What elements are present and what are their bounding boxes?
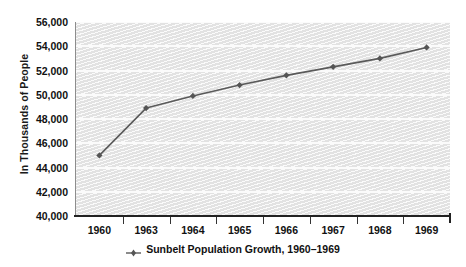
data-point-1964: [190, 93, 196, 99]
y-axis-tick-label: 44,000: [36, 162, 68, 174]
legend-marker-icon: [126, 244, 141, 254]
x-axis-tick: [216, 217, 217, 224]
line-chart: In Thousands of People 56,00054,00052,00…: [0, 0, 466, 267]
data-point-1965: [237, 82, 243, 88]
x-axis-tick-label: 1968: [368, 224, 391, 236]
x-axis-tick-label: 1960: [88, 224, 111, 236]
data-point-1967: [330, 64, 336, 70]
x-axis-tick: [357, 217, 358, 224]
y-axis-tick-label: 40,000: [36, 210, 68, 222]
x-axis-tick-label: 1967: [321, 224, 344, 236]
y-axis-tick-label: 52,000: [36, 65, 68, 77]
legend-label: Sunbelt Population Growth, 1960–1969: [146, 243, 340, 255]
y-axis-tick-labels: 56,00054,00052,00050,00048,00046,00044,0…: [0, 0, 72, 267]
x-axis-tick: [403, 217, 404, 224]
data-point-1968: [377, 55, 383, 61]
y-axis-tick-label: 46,000: [36, 137, 68, 149]
data-point-1969: [424, 44, 430, 50]
series-line: [99, 47, 426, 155]
y-axis-tick-label: 42,000: [36, 186, 68, 198]
y-axis-tick-label: 54,000: [36, 40, 68, 52]
x-axis-tick-label: 1969: [415, 224, 438, 236]
y-axis-tick-label: 48,000: [36, 113, 68, 125]
x-axis-tick-label: 1964: [181, 224, 204, 236]
chart-legend: Sunbelt Population Growth, 1960–1969: [0, 243, 466, 255]
series-markers: [96, 44, 429, 158]
x-axis-tick: [263, 217, 264, 224]
x-axis-tick-label: 1965: [228, 224, 251, 236]
y-axis-tick-label: 56,000: [36, 16, 68, 28]
y-axis-tick-label: 50,000: [36, 89, 68, 101]
x-axis-tick: [170, 217, 171, 224]
data-series-sunbelt-population: [76, 22, 450, 216]
data-point-1966: [283, 72, 289, 78]
x-axis-tick: [123, 217, 124, 224]
x-axis-tick-label: 1963: [134, 224, 157, 236]
x-axis-tick: [310, 217, 311, 224]
x-axis-tick-label: 1966: [275, 224, 298, 236]
